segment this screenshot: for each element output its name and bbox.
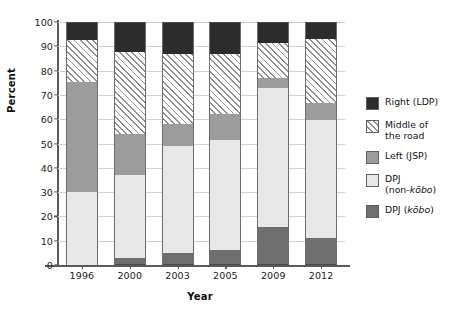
x-tick-mark <box>321 266 322 269</box>
solid-dark-swatch <box>366 97 379 110</box>
gridline <box>58 192 345 193</box>
gridline <box>58 95 345 96</box>
y-tick-label: 80 <box>41 65 53 76</box>
legend-item-middle[interactable]: Middle ofthe road <box>366 119 455 141</box>
y-tick-mark <box>54 46 58 47</box>
x-tick-label: 2012 <box>291 270 351 281</box>
bar-segment <box>162 54 194 124</box>
bar-segment <box>209 114 241 140</box>
legend: Right (LDP)Middle ofthe roadLeft (JSP)DP… <box>366 96 455 227</box>
gridline <box>58 119 345 120</box>
bar-segment <box>162 22 194 54</box>
y-tick-label: 10 <box>41 235 53 246</box>
gridlines <box>58 22 345 265</box>
x-tick-mark <box>82 266 83 269</box>
gridline <box>58 144 345 145</box>
y-tick-mark <box>54 119 58 120</box>
bar-segment <box>257 88 289 228</box>
bar-2012 <box>305 22 337 265</box>
bar-segment <box>257 22 289 43</box>
y-tick-label: 60 <box>41 114 53 125</box>
y-tick-mark <box>54 70 58 71</box>
plot-area: 0102030405060708090100 <box>58 22 345 265</box>
gridline <box>58 46 345 47</box>
y-tick-label: 0 <box>47 260 53 271</box>
bar-segment <box>305 120 337 238</box>
y-tick-mark <box>54 240 58 241</box>
legend-item-left_jsp[interactable]: Left (JSP) <box>366 150 455 164</box>
solid-light-swatch <box>366 174 379 187</box>
x-axis-label: Year <box>0 291 400 302</box>
y-tick-label: 50 <box>41 138 53 149</box>
hatched-swatch <box>366 120 379 133</box>
y-tick-label: 90 <box>41 41 53 52</box>
y-tick-label: 100 <box>35 17 53 28</box>
bar-segment <box>66 192 98 265</box>
bar-segment <box>114 22 146 52</box>
bar-2000 <box>114 22 146 265</box>
y-tick-label: 40 <box>41 162 53 173</box>
gridline <box>58 216 345 217</box>
solid-darkgray-swatch <box>366 205 379 218</box>
legend-item-label: DPJ (kōbo) <box>385 204 434 215</box>
legend-item-label: Right (LDP) <box>385 96 438 107</box>
bar-segment <box>257 227 289 265</box>
bar-1996 <box>66 22 98 265</box>
x-tick-mark <box>178 266 179 269</box>
bar-segment <box>257 43 289 78</box>
bar-segment <box>66 22 98 40</box>
bar-2009 <box>257 22 289 265</box>
legend-item-label: Middle ofthe road <box>385 119 428 141</box>
y-tick-label: 30 <box>41 187 53 198</box>
legend-item-label: DPJ(non-kōbo) <box>385 173 436 195</box>
y-tick-mark <box>54 21 58 22</box>
bar-segment <box>209 140 241 251</box>
y-tick-label: 70 <box>41 89 53 100</box>
bar-segment <box>162 124 194 146</box>
x-tick-mark <box>273 266 274 269</box>
bar-segment <box>305 238 337 265</box>
bar-segment <box>257 78 289 88</box>
y-tick-mark <box>54 167 58 168</box>
gridline <box>58 168 345 169</box>
y-tick-mark <box>54 94 58 95</box>
y-tick-label: 20 <box>41 211 53 222</box>
bar-segment <box>114 175 146 258</box>
bar-segment <box>209 54 241 115</box>
legend-item-dpj_kobo[interactable]: DPJ (kōbo) <box>366 204 455 218</box>
bar-segment <box>66 82 98 193</box>
y-tick-mark <box>54 216 58 217</box>
bar-segment <box>305 22 337 39</box>
x-tick-mark <box>130 266 131 269</box>
bar-segment <box>305 39 337 103</box>
gridline <box>58 241 345 242</box>
bar-segment <box>305 103 337 120</box>
y-axis-label: Percent <box>6 68 17 113</box>
bar-segment <box>209 22 241 54</box>
bar-2005 <box>209 22 241 265</box>
solid-gray-swatch <box>366 151 379 164</box>
bar-2003 <box>162 22 194 265</box>
bar-segment <box>66 40 98 81</box>
y-tick-mark <box>54 143 58 144</box>
bar-segment <box>114 258 146 265</box>
y-tick-mark <box>54 264 58 265</box>
y-tick-mark <box>54 192 58 193</box>
bar-segment <box>114 52 146 133</box>
chart-figure: Percent 0102030405060708090100 199620002… <box>0 0 455 312</box>
legend-item-label: Left (JSP) <box>385 150 427 161</box>
legend-item-right_ldp[interactable]: Right (LDP) <box>366 96 455 110</box>
gridline <box>58 71 345 72</box>
bar-segment <box>209 250 241 265</box>
bar-segment <box>162 253 194 265</box>
gridline <box>58 22 345 23</box>
x-axis-line <box>45 265 350 267</box>
x-tick-mark <box>225 266 226 269</box>
bar-segment <box>114 134 146 175</box>
legend-item-dpj_nonkobo[interactable]: DPJ(non-kōbo) <box>366 173 455 195</box>
bar-segment <box>162 146 194 253</box>
